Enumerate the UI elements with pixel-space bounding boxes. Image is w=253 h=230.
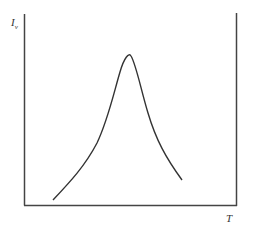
plot-frame (24, 13, 237, 206)
x-axis-label: T (226, 212, 233, 224)
peak-curve (53, 55, 182, 200)
diagram-canvas: Iv T (0, 0, 253, 230)
y-axis-label: Iv (10, 16, 19, 31)
